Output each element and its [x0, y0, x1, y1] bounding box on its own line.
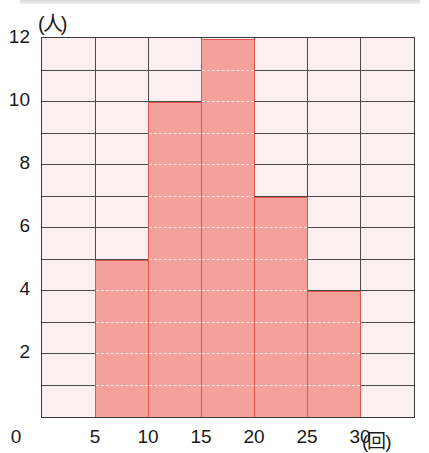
bar-dashed-gridline — [202, 353, 254, 354]
y-tick-label: 10 — [0, 89, 30, 111]
bar-dashed-gridline — [255, 290, 307, 291]
bar-dashed-gridline — [149, 259, 201, 260]
bar-dashed-gridline — [255, 385, 307, 386]
x-tick-label: 25 — [296, 426, 317, 448]
bar-dashed-gridline — [149, 322, 201, 323]
x-tick-label: 20 — [243, 426, 264, 448]
x-tick-label: 5 — [90, 426, 101, 448]
histogram-bar-10-15 — [148, 102, 202, 417]
bar-dashed-gridline — [149, 353, 201, 354]
x-tick-label: 0 — [11, 426, 22, 448]
bar-dashed-gridline — [202, 164, 254, 165]
x-axis-unit-label: (回) — [362, 426, 391, 453]
bar-dashed-gridline — [202, 101, 254, 102]
bar-dashed-gridline — [255, 259, 307, 260]
y-tick-label: 4 — [0, 278, 30, 300]
y-tick-label: 6 — [0, 215, 30, 237]
bar-dashed-gridline — [149, 133, 201, 134]
bar-dashed-gridline — [308, 385, 360, 386]
bar-dashed-gridline — [202, 227, 254, 228]
histogram-bar-25-30 — [307, 291, 361, 417]
x-tick-label: 15 — [190, 426, 211, 448]
bar-dashed-gridline — [96, 290, 148, 291]
bar-dashed-gridline — [96, 385, 148, 386]
y-axis-unit-label: (人) — [38, 8, 65, 37]
bar-dashed-gridline — [202, 259, 254, 260]
bar-dashed-gridline — [149, 196, 201, 197]
y-tick-label: 12 — [0, 26, 30, 48]
bar-dashed-gridline — [96, 353, 148, 354]
bar-dashed-gridline — [255, 227, 307, 228]
y-tick-label: 2 — [0, 341, 30, 363]
bar-dashed-gridline — [255, 322, 307, 323]
x-tick-label: 10 — [137, 426, 158, 448]
bar-dashed-gridline — [202, 196, 254, 197]
bar-dashed-gridline — [202, 385, 254, 386]
histogram-bar-15-20 — [201, 39, 255, 417]
bar-dashed-gridline — [255, 353, 307, 354]
histogram-bar-20-25 — [254, 197, 308, 418]
bar-dashed-gridline — [149, 385, 201, 386]
plot-area — [41, 37, 415, 418]
bar-dashed-gridline — [149, 290, 201, 291]
bar-dashed-gridline — [202, 290, 254, 291]
bar-dashed-gridline — [149, 227, 201, 228]
bar-dashed-gridline — [202, 322, 254, 323]
histogram-bar-5-10 — [95, 260, 149, 418]
bar-dashed-gridline — [308, 353, 360, 354]
bar-dashed-gridline — [96, 322, 148, 323]
y-tick-label: 8 — [0, 152, 30, 174]
cropped-title-remnant — [20, 0, 420, 4]
bar-dashed-gridline — [202, 133, 254, 134]
bar-dashed-gridline — [149, 164, 201, 165]
bar-dashed-gridline — [202, 70, 254, 71]
bar-dashed-gridline — [308, 322, 360, 323]
